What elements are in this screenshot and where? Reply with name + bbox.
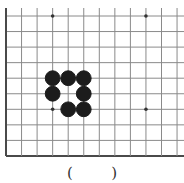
close-paren: ) bbox=[111, 164, 117, 182]
black-stone bbox=[61, 102, 76, 117]
star-point bbox=[144, 108, 148, 112]
black-stone bbox=[45, 71, 60, 86]
grid-lines bbox=[6, 8, 184, 156]
star-point bbox=[51, 108, 55, 112]
black-stone bbox=[76, 86, 91, 101]
open-paren: ( bbox=[67, 164, 73, 182]
black-stone bbox=[45, 86, 60, 101]
black-stone bbox=[76, 102, 91, 117]
black-stone bbox=[61, 71, 76, 86]
black-stone bbox=[76, 71, 91, 86]
go-board bbox=[0, 0, 184, 160]
star-point bbox=[51, 14, 55, 18]
answer-blank: ( ) bbox=[64, 164, 120, 182]
star-point bbox=[144, 14, 148, 18]
